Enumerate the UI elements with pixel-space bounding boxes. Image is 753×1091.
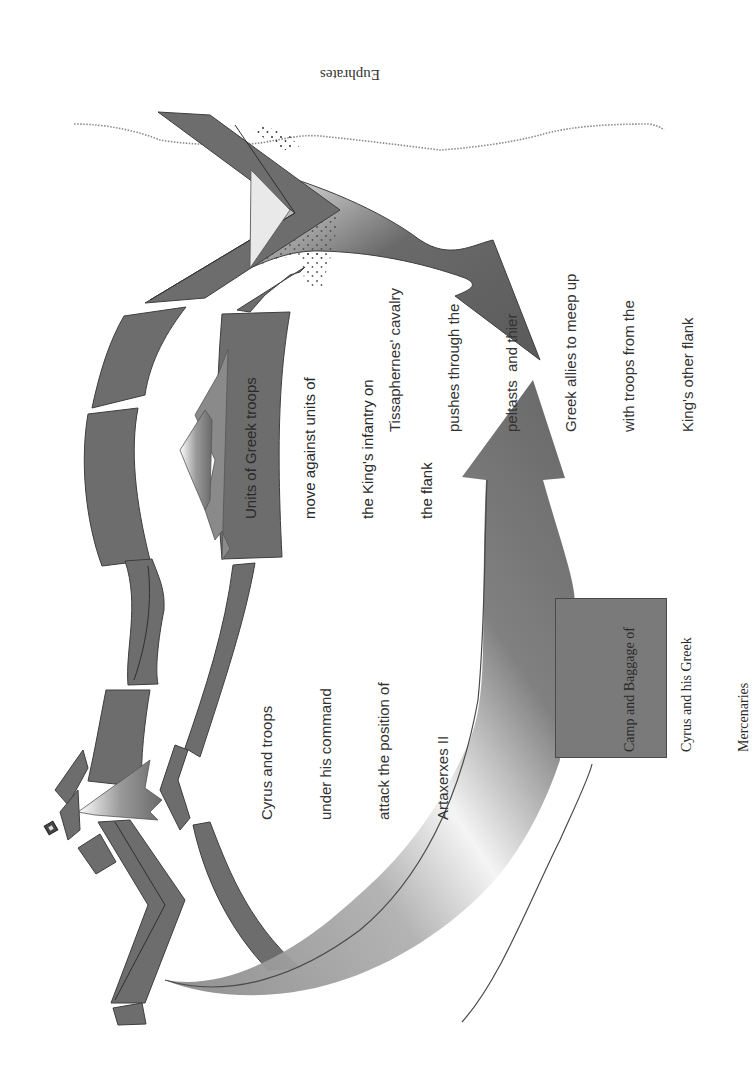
greek-left-wing-chevron bbox=[98, 820, 185, 1003]
greek-units-line-3: the King's infantry on bbox=[358, 377, 378, 519]
camp-line-1: Camp and Baggage of bbox=[620, 627, 639, 752]
greek-units-annotation: Units of Greek troops move against units… bbox=[202, 377, 456, 519]
camp-annotation: Camp and Baggage of Cyrus and his Greek … bbox=[582, 627, 753, 752]
cyrus-bracket bbox=[160, 745, 190, 830]
tissaphernes-line-3: peltasts and thier bbox=[502, 274, 522, 432]
cyrus-line-2: under his command bbox=[316, 682, 336, 820]
greek-units-line-2: move against units of bbox=[300, 377, 320, 519]
king-infantry-block-3 bbox=[193, 822, 300, 970]
tissaphernes-line-6: King's other flank bbox=[678, 274, 698, 432]
greek-units-line-4: the flank bbox=[417, 377, 437, 519]
greek-units-line-1: Units of Greek troops bbox=[241, 377, 261, 519]
greek-infantry-block-3 bbox=[125, 559, 164, 685]
dots-lower-edge bbox=[300, 250, 330, 290]
greek-infantry-block-1 bbox=[92, 307, 186, 408]
cyrus-line-3: attack the position of bbox=[374, 682, 394, 820]
cyrus-annotation: Cyrus and troops under his command attac… bbox=[218, 682, 472, 820]
greek-small-unit bbox=[237, 267, 305, 312]
euphrates-label: Euphrates bbox=[320, 65, 380, 85]
cyrus-line-4: Artaxerxes II bbox=[433, 682, 453, 820]
camp-line-2: Cyrus and his Greek bbox=[677, 627, 696, 752]
tissaphernes-line-5: with troops from the bbox=[619, 274, 639, 432]
camp-line-3: Mercenaries bbox=[734, 627, 753, 752]
tissaphernes-line-4: Greek allies to meep up bbox=[561, 274, 581, 432]
cyrus-line-1: Cyrus and troops bbox=[257, 682, 277, 820]
greek-infantry-block-2 bbox=[84, 408, 150, 566]
artaxerxes-guard-block-a bbox=[55, 750, 88, 805]
peltasts-dotted-zone bbox=[250, 126, 300, 150]
euphrates-river-line bbox=[74, 124, 664, 150]
greek-small-base-block bbox=[113, 1003, 146, 1025]
